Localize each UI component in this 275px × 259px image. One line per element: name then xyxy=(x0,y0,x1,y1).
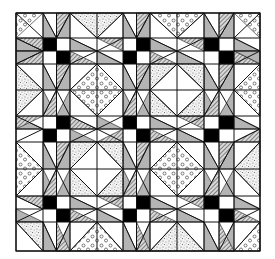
black-square xyxy=(219,116,234,129)
black-square xyxy=(57,51,71,64)
black-square xyxy=(137,129,151,142)
black-square xyxy=(219,51,234,64)
quilt-pattern-figure xyxy=(0,0,275,259)
black-square xyxy=(204,129,219,142)
black-square xyxy=(219,209,234,222)
black-square xyxy=(123,209,137,222)
black-square xyxy=(137,196,151,209)
black-square xyxy=(43,38,57,51)
black-square xyxy=(123,116,137,129)
black-square xyxy=(57,209,71,222)
black-square xyxy=(137,38,151,51)
black-square xyxy=(123,51,137,64)
black-square xyxy=(204,196,219,209)
black-square xyxy=(43,196,57,209)
black-square xyxy=(57,116,71,129)
black-square xyxy=(43,129,57,142)
black-square xyxy=(204,38,219,51)
